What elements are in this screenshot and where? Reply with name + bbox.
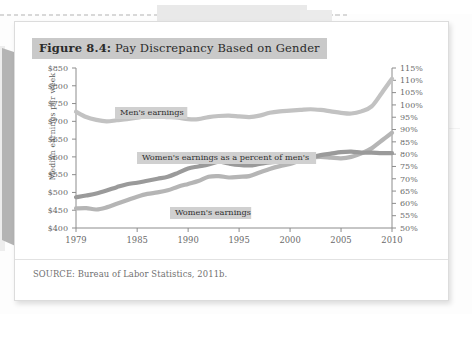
series-label-womens-earnings-group: Women's earnings bbox=[170, 207, 251, 219]
y2-axis-tick-label: 80% bbox=[400, 150, 418, 159]
y2-axis-tick-label: 50% bbox=[400, 224, 418, 233]
series-label-percent-of-mens: Women's earnings as a percent of men's bbox=[142, 152, 309, 162]
x-axis-tick-label: 1985 bbox=[126, 235, 147, 245]
line-chart: $400$450$500$550$600$650$700$750$800$850… bbox=[15, 60, 448, 260]
y2-axis-tick-label: 115% bbox=[400, 64, 423, 73]
x-axis-tick-label: 1979 bbox=[65, 235, 86, 245]
figure-title: Figure 8.4: Pay Discrepancy Based on Gen… bbox=[32, 38, 327, 59]
y2-axis-tick-label: 55% bbox=[400, 211, 418, 220]
left-bottom-axis-spine bbox=[76, 68, 392, 228]
y2-axis-tick-label: 90% bbox=[400, 125, 418, 134]
series-line-womens-earnings bbox=[76, 133, 392, 210]
x-axis-tick-label: 2005 bbox=[330, 235, 351, 245]
figure-title-container: Figure 8.4: Pay Discrepancy Based on Gen… bbox=[32, 37, 327, 59]
footer-divider bbox=[15, 259, 448, 260]
y2-axis-tick-label: 105% bbox=[400, 88, 423, 97]
y2-axis-tick-label: 100% bbox=[400, 101, 423, 110]
y-axis-tick-label: $450 bbox=[48, 206, 68, 215]
x-axis-tick-label: 1995 bbox=[228, 235, 249, 245]
y2-axis-tick-label: 75% bbox=[400, 162, 418, 171]
y-axis-tick-label: $400 bbox=[48, 224, 68, 233]
series-label-mens-earnings: Men's earnings bbox=[120, 107, 184, 117]
x-axis-tick-label: 1990 bbox=[177, 235, 198, 245]
y2-axis-tick-label: 70% bbox=[400, 175, 418, 184]
y2-axis-tick-label: 65% bbox=[400, 187, 418, 196]
chart-plot-area: Median earnings per week $400$450$500$55… bbox=[15, 60, 448, 260]
x-axis-tick-label: 2010 bbox=[381, 235, 402, 245]
y2-axis-tick-label: 60% bbox=[400, 199, 418, 208]
series-label-percent-of-mens-group: Women's earnings as a percent of men's bbox=[137, 152, 316, 164]
figure-source: SOURCE: Bureau of Labor Statistics, 2011… bbox=[33, 269, 227, 279]
series-label-womens-earnings: Women's earnings bbox=[175, 207, 251, 217]
y2-axis-tick-label: 110% bbox=[400, 76, 423, 85]
figure-card: Figure 8.4: Pay Discrepancy Based on Gen… bbox=[14, 21, 449, 301]
y2-axis-tick-label: 85% bbox=[400, 138, 418, 147]
figure-title-text: Pay Discrepancy Based on Gender bbox=[111, 41, 320, 55]
figure-number: Figure 8.4: bbox=[39, 41, 111, 55]
y2-axis-tick-label: 95% bbox=[400, 113, 418, 122]
y-axis-title: Median earnings per week bbox=[48, 67, 57, 187]
y-axis-tick-label: $500 bbox=[48, 188, 68, 197]
series-label-mens-earnings-group: Men's earnings bbox=[115, 107, 187, 119]
x-axis-tick-label: 2000 bbox=[279, 235, 300, 245]
